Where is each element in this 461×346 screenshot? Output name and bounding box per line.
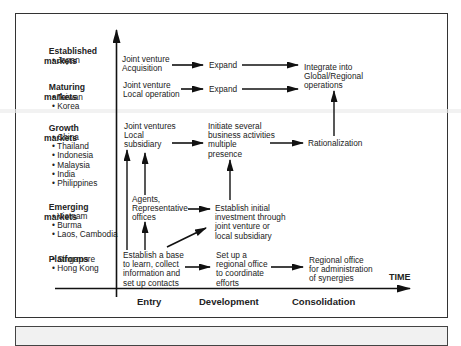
diagram-arrows bbox=[0, 0, 461, 333]
